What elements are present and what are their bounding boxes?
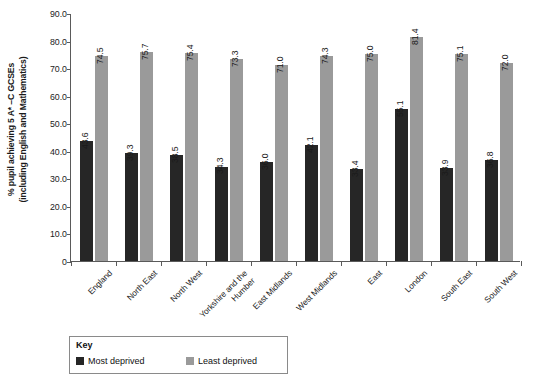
y-tick-label: 80.0 xyxy=(33,37,67,47)
bar[interactable] xyxy=(485,160,498,261)
x-tick-mark xyxy=(386,261,387,266)
x-tick-mark xyxy=(71,261,72,266)
x-tick-mark xyxy=(251,261,252,266)
y-tick-label: 20.0 xyxy=(33,202,67,212)
legend-item-most-deprived: Most deprived xyxy=(76,356,145,366)
x-tick-mark xyxy=(116,261,117,266)
x-tick-mark xyxy=(206,261,207,266)
legend: Key Most deprived Least deprived xyxy=(69,336,288,374)
legend-swatch-least-deprived xyxy=(186,357,194,365)
x-tick-label: South West xyxy=(438,268,519,349)
x-tick-mark xyxy=(296,261,297,266)
y-tick-label: 50.0 xyxy=(33,119,67,129)
bar-chart: % pupil achieving 5 A* –C GCSEs (includi… xyxy=(0,0,538,378)
legend-label-least-deprived: Least deprived xyxy=(198,356,257,366)
y-tick-label: 10.0 xyxy=(33,229,67,239)
legend-swatch-most-deprived xyxy=(76,357,84,365)
bar-value-label: 72.0 xyxy=(500,54,510,70)
x-tick-label: South East xyxy=(393,268,474,349)
y-tick-label: 40.0 xyxy=(33,147,67,157)
legend-title: Key xyxy=(76,340,93,350)
y-tick-label: 60.0 xyxy=(33,92,67,102)
y-tick-label: 70.0 xyxy=(33,64,67,74)
y-axis-tick-labels: 90.080.070.060.050.040.030.020.010.00 xyxy=(33,0,67,270)
bar-group: 36.872.0 xyxy=(71,14,521,261)
x-axis-tick-labels: EnglandNorth EastNorth WestYorkshire and… xyxy=(70,268,520,334)
bar-value-label: 36.8 xyxy=(485,151,495,167)
bar[interactable] xyxy=(500,63,513,261)
x-tick-mark xyxy=(521,261,522,266)
x-tick-mark xyxy=(341,261,342,266)
y-axis-title-wrap: % pupil achieving 5 A* –C GCSEs (includi… xyxy=(0,0,34,270)
x-tick-label: East xyxy=(303,268,384,349)
y-tick-label: 90.0 xyxy=(33,9,67,19)
x-tick-label: London xyxy=(348,268,429,349)
y-axis-title: % pupil achieving 5 A* –C GCSEs (includi… xyxy=(6,10,29,250)
legend-label-most-deprived: Most deprived xyxy=(88,356,145,366)
y-tick-label: 0 xyxy=(33,257,67,267)
x-tick-mark xyxy=(476,261,477,266)
plot-area: 43.674.539.375.738.575.434.373.336.071.0… xyxy=(70,14,520,262)
legend-item-least-deprived: Least deprived xyxy=(186,356,257,366)
x-tick-mark xyxy=(431,261,432,266)
x-tick-mark xyxy=(161,261,162,266)
y-tick-label: 30.0 xyxy=(33,174,67,184)
